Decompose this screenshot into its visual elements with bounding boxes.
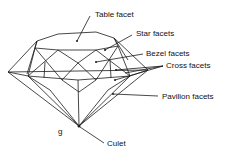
label-pavilion-facets: Pavilion facets [162, 93, 214, 101]
label-cross-facets: Cross facets [166, 62, 210, 70]
diamond-drawing [0, 0, 227, 154]
label-bezel-facets: Bezel facets [146, 50, 190, 58]
diamond-diagram: Table facet Star facets Bezel facets Cro… [0, 0, 227, 154]
label-table-facet: Table facet [95, 11, 134, 19]
figure-letter: g [58, 128, 62, 136]
label-culet: Culet [107, 140, 126, 148]
label-star-facets: Star facets [136, 30, 174, 38]
